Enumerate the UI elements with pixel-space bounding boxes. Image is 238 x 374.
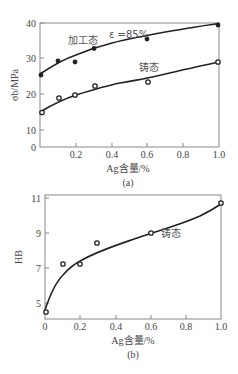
y-tick-b: 7 bbox=[36, 263, 41, 274]
y-tick-a: 30 bbox=[26, 53, 36, 64]
y-tick-a: 0 bbox=[31, 142, 36, 153]
caption-b: (b) bbox=[127, 349, 139, 361]
y-tick-a: 10 bbox=[26, 125, 36, 136]
x-tick-a: 0.6 bbox=[141, 149, 154, 160]
annotation-strain: ε =85% bbox=[109, 29, 148, 40]
chart-b: 11 9 7 5 0 0.2 0.4 0.6 0.8 1.0 Ag含量/% (b… bbox=[13, 193, 227, 361]
y-tick-b: 5 bbox=[36, 298, 41, 309]
x-tick-b: 1.0 bbox=[215, 321, 228, 332]
plot-frame-a bbox=[40, 23, 219, 147]
y-axis-label-a: σb/MPa bbox=[9, 68, 20, 101]
y-tick-a: 40 bbox=[26, 18, 36, 29]
caption-a: (a) bbox=[122, 177, 133, 189]
y-tick-b: 9 bbox=[36, 228, 41, 239]
annotation-worked: 加工态 bbox=[68, 34, 98, 46]
annotation-cast-a: 铸态 bbox=[139, 61, 159, 73]
x-tick-b: 0.4 bbox=[110, 321, 123, 332]
y-tick-a: 20 bbox=[26, 89, 36, 100]
curve-hardness bbox=[45, 204, 221, 310]
figure: 40 30 20 10 0 0.2 0.4 0.6 0.8 1.0 Ag含量/%… bbox=[0, 0, 238, 374]
x-axis-label-a: Ag含量/% bbox=[106, 162, 149, 174]
x-tick-b: 0.8 bbox=[180, 321, 193, 332]
annotation-cast-b: 铸态 bbox=[161, 227, 181, 239]
x-tick-a: 0.8 bbox=[177, 149, 190, 160]
x-tick-b: 0.2 bbox=[74, 321, 87, 332]
curve-cast bbox=[40, 62, 219, 112]
x-tick-a: 0.2 bbox=[70, 149, 83, 160]
x-tick-a: 0.4 bbox=[106, 149, 119, 160]
x-tick-b: 0 bbox=[43, 321, 48, 332]
x-tick-a: 1.0 bbox=[213, 149, 226, 160]
y-axis-label-b: HB bbox=[13, 250, 24, 264]
x-tick-b: 0.6 bbox=[145, 321, 158, 332]
plot-frame-b bbox=[45, 195, 221, 319]
y-tick-b: 11 bbox=[31, 193, 41, 204]
x-axis-label-b: Ag含量/% bbox=[111, 334, 154, 346]
chart-a: 40 30 20 10 0 0.2 0.4 0.6 0.8 1.0 Ag含量/%… bbox=[9, 18, 225, 189]
